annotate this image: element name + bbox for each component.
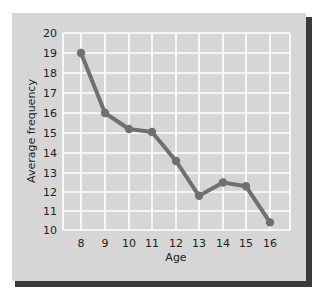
- x-tick-label: 8: [78, 237, 85, 250]
- y-tick-label: 18: [43, 67, 57, 80]
- y-tick-label: 14: [43, 147, 57, 160]
- y-axis-ticks: 1011121314151617181920: [43, 27, 57, 237]
- data-point-marker: [125, 125, 133, 133]
- y-tick-label: 17: [43, 87, 57, 100]
- x-tick-label: 14: [216, 237, 230, 250]
- x-tick-label: 15: [239, 237, 253, 250]
- data-point-marker: [77, 49, 85, 57]
- y-tick-label: 19: [43, 47, 57, 60]
- y-tick-label: 16: [43, 107, 57, 120]
- y-axis-title: Average frequency: [25, 79, 38, 183]
- x-tick-label: 16: [263, 237, 277, 250]
- y-tick-label: 10: [43, 224, 57, 237]
- y-tick-label: 15: [43, 127, 57, 140]
- x-tick-label: 10: [122, 237, 136, 250]
- x-tick-label: 13: [192, 237, 206, 250]
- data-point-marker: [219, 178, 227, 186]
- data-point-marker: [266, 218, 274, 226]
- data-point-marker: [242, 182, 250, 190]
- x-axis-title: Age: [165, 251, 187, 264]
- x-tick-label: 9: [102, 237, 109, 250]
- y-tick-label: 11: [43, 205, 57, 218]
- data-point-marker: [195, 192, 203, 200]
- y-tick-label: 13: [43, 167, 57, 180]
- x-tick-label: 12: [169, 237, 183, 250]
- data-point-marker: [101, 109, 109, 117]
- data-point-marker: [148, 128, 156, 136]
- x-axis-ticks: 8910111213141516: [78, 237, 278, 250]
- line-chart: 1011121314151617181920 8910111213141516 …: [0, 0, 330, 295]
- x-tick-label: 11: [145, 237, 159, 250]
- chart-canvas: 1011121314151617181920 8910111213141516 …: [0, 0, 330, 295]
- y-tick-label: 12: [43, 186, 57, 199]
- data-point-marker: [172, 157, 180, 165]
- y-tick-label: 20: [43, 27, 57, 40]
